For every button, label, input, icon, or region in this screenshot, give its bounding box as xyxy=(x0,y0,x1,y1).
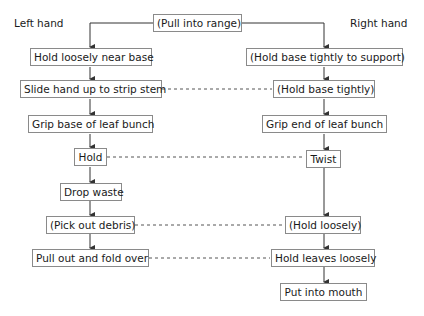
right-step-3: Grip end of leaf bunch xyxy=(262,115,387,133)
left-step-1: Hold loosely near base xyxy=(30,48,152,66)
right-step-4: Twist xyxy=(306,150,341,168)
left-step-2: Slide hand up to strip stem xyxy=(20,80,162,98)
right-step-7: Put into mouth xyxy=(280,283,367,301)
right-hand-header: Right hand xyxy=(350,17,407,29)
left-step-4: Hold xyxy=(74,148,107,166)
left-step-6: (Pick out debris) xyxy=(46,216,135,234)
right-step-1: (Hold base tightly to support) xyxy=(246,48,403,66)
start-node: (Pull into range) xyxy=(153,14,242,32)
right-step-2: (Hold base tightly) xyxy=(273,80,375,98)
left-step-5: Drop waste xyxy=(60,183,122,201)
left-step-3: Grip base of leaf bunch xyxy=(28,115,153,133)
left-hand-header: Left hand xyxy=(14,17,64,29)
right-step-6: Hold leaves loosely xyxy=(271,249,375,267)
left-step-7: Pull out and fold over xyxy=(32,249,149,267)
right-step-5: (Hold loosely) xyxy=(285,216,361,234)
